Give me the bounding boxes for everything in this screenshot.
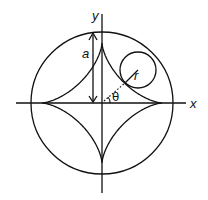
astroid-diagram: y x a r θ <box>0 0 208 200</box>
theta-label: θ <box>112 89 119 104</box>
r-label: r <box>134 68 139 83</box>
angle-arc <box>108 97 110 103</box>
y-axis-label: y <box>91 8 100 23</box>
x-axis-label: x <box>189 96 197 111</box>
a-label: a <box>82 46 89 61</box>
